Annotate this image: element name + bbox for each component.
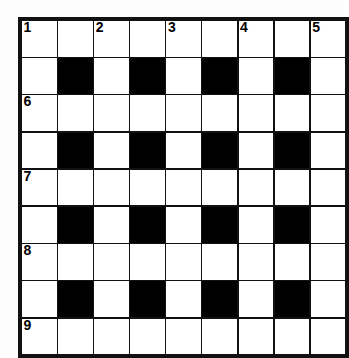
crossword-open-cell[interactable] (239, 319, 274, 355)
crossword-open-cell[interactable]: 7 (22, 170, 57, 206)
crossword-open-cell[interactable] (239, 244, 274, 280)
crossword-open-cell[interactable] (239, 281, 274, 317)
crossword-open-cell[interactable] (130, 21, 165, 57)
crossword-open-cell[interactable] (239, 58, 274, 94)
crossword-open-cell[interactable] (130, 319, 165, 355)
crossword-open-cell[interactable] (239, 133, 274, 169)
crossword-block-cell (202, 133, 237, 169)
crossword-open-cell[interactable] (311, 319, 346, 355)
crossword-open-cell[interactable] (202, 170, 237, 206)
crossword-open-cell[interactable]: 8 (22, 244, 57, 280)
crossword-open-cell[interactable] (311, 244, 346, 280)
crossword-open-cell[interactable] (58, 21, 93, 57)
crossword-open-cell[interactable]: 1 (22, 21, 57, 57)
crossword-open-cell[interactable] (166, 58, 201, 94)
crossword-open-cell[interactable]: 2 (94, 21, 129, 57)
crossword-open-cell[interactable] (239, 207, 274, 243)
crossword-open-cell[interactable]: 4 (239, 21, 274, 57)
cell-number: 1 (24, 21, 32, 35)
crossword-block-cell (275, 207, 310, 243)
crossword-block-cell (58, 207, 93, 243)
crossword-open-cell[interactable] (311, 170, 346, 206)
crossword-open-cell[interactable] (94, 170, 129, 206)
crossword-open-cell[interactable] (166, 244, 201, 280)
crossword-open-cell[interactable]: 9 (22, 319, 57, 355)
crossword-open-cell[interactable] (239, 95, 274, 131)
crossword-block-cell (130, 207, 165, 243)
crossword-open-cell[interactable] (22, 133, 57, 169)
crossword-block-cell (58, 281, 93, 317)
crossword-open-cell[interactable] (166, 319, 201, 355)
crossword-block-cell (130, 281, 165, 317)
crossword-open-cell[interactable] (311, 133, 346, 169)
crossword-open-cell[interactable] (311, 95, 346, 131)
crossword-block-cell (202, 207, 237, 243)
crossword-open-cell[interactable] (166, 95, 201, 131)
crossword-open-cell[interactable] (94, 133, 129, 169)
cell-number: 5 (312, 21, 320, 35)
crossword-open-cell[interactable] (202, 244, 237, 280)
crossword-open-cell[interactable] (94, 281, 129, 317)
crossword-open-cell[interactable] (311, 207, 346, 243)
crossword-open-cell[interactable] (275, 170, 310, 206)
crossword-block-cell (275, 281, 310, 317)
crossword-block-cell (275, 58, 310, 94)
cell-number: 7 (24, 170, 32, 184)
crossword-open-cell[interactable]: 3 (166, 21, 201, 57)
crossword-open-cell[interactable] (311, 281, 346, 317)
cell-number: 9 (24, 319, 32, 333)
crossword-open-cell[interactable] (275, 319, 310, 355)
crossword-open-cell[interactable] (94, 58, 129, 94)
crossword-open-cell[interactable] (22, 281, 57, 317)
crossword-grid[interactable]: 123456789 (18, 17, 349, 358)
cell-number: 3 (168, 21, 176, 35)
crossword-open-cell[interactable]: 5 (311, 21, 346, 57)
crossword-open-cell[interactable] (166, 170, 201, 206)
crossword-open-cell[interactable] (58, 319, 93, 355)
crossword-open-cell[interactable] (166, 207, 201, 243)
cell-number: 4 (240, 21, 248, 35)
crossword-open-cell[interactable] (94, 95, 129, 131)
crossword-open-cell[interactable] (130, 95, 165, 131)
crossword-open-cell[interactable] (130, 244, 165, 280)
crossword-open-cell[interactable] (58, 170, 93, 206)
crossword-block-cell (58, 133, 93, 169)
crossword-open-cell[interactable] (94, 207, 129, 243)
crossword-block-cell (202, 281, 237, 317)
crossword-open-cell[interactable] (202, 319, 237, 355)
crossword-open-cell[interactable]: 6 (22, 95, 57, 131)
crossword-open-cell[interactable] (202, 95, 237, 131)
cell-number: 6 (24, 95, 32, 109)
crossword-block-cell (275, 133, 310, 169)
crossword-open-cell[interactable] (275, 244, 310, 280)
crossword-open-cell[interactable] (166, 281, 201, 317)
crossword-open-cell[interactable] (275, 95, 310, 131)
crossword-open-cell[interactable] (239, 170, 274, 206)
crossword-open-cell[interactable] (275, 21, 310, 57)
crossword-block-cell (130, 133, 165, 169)
cell-number: 8 (24, 244, 32, 258)
crossword-block-cell (58, 58, 93, 94)
crossword-open-cell[interactable] (166, 133, 201, 169)
crossword-open-cell[interactable] (202, 21, 237, 57)
crossword-open-cell[interactable] (311, 58, 346, 94)
crossword-open-cell[interactable] (58, 244, 93, 280)
crossword-open-cell[interactable] (130, 170, 165, 206)
crossword-block-cell (202, 58, 237, 94)
crossword-open-cell[interactable] (22, 58, 57, 94)
crossword-open-cell[interactable] (94, 244, 129, 280)
cell-number: 2 (96, 21, 104, 35)
crossword-block-cell (130, 58, 165, 94)
crossword-open-cell[interactable] (94, 319, 129, 355)
crossword-open-cell[interactable] (22, 207, 57, 243)
crossword-open-cell[interactable] (58, 95, 93, 131)
